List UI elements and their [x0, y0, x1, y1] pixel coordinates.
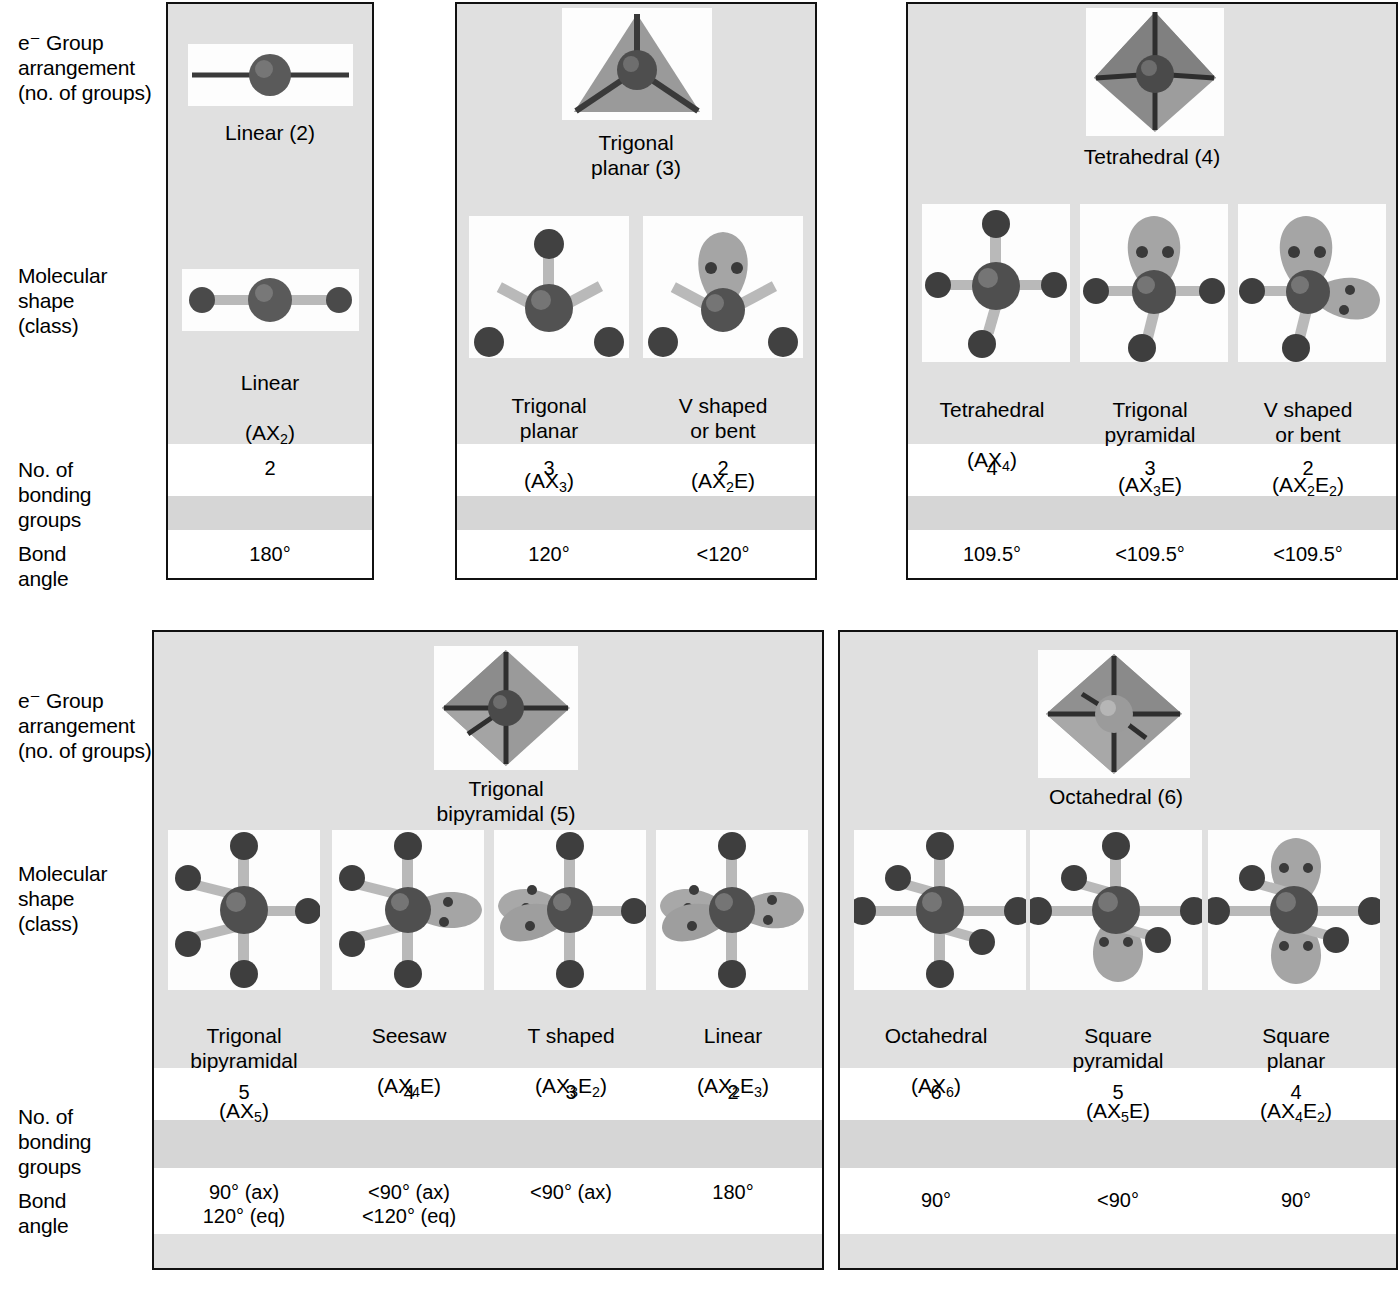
- bond-angle-trigonal-pyramidal: <109.5°: [1070, 542, 1230, 566]
- bond-angle-tetrahedral: 109.5°: [912, 542, 1072, 566]
- linear-ax2-icon: [182, 269, 359, 331]
- panel-trigonal-bipyramidal: Trigonal bipyramidal (5) Trigonal bipyra…: [152, 630, 824, 1270]
- bond-angle-square-planar: 90°: [1204, 1188, 1388, 1212]
- bonding-groups-square-pyramidal: 5: [1026, 1080, 1210, 1104]
- shape-label-bent-ax2e2: V shaped or bent (AX2E2): [1228, 372, 1388, 504]
- shape-name: Square planar: [1262, 1024, 1330, 1072]
- shape-label-trigonal-planar-ax3: Trigonal planar (AX3): [461, 368, 637, 500]
- octahedral-eg-icon: [1038, 650, 1190, 778]
- bonding-groups-bent-ax2e: 2: [635, 456, 811, 480]
- shape-label-square-pyramidal-ax5e: Square pyramidal (AX5E): [1026, 998, 1210, 1130]
- shape-name: Square pyramidal: [1072, 1024, 1163, 1072]
- shape-name: Trigonal planar: [511, 394, 586, 442]
- row-label-bonding-groups-bottom: No. of bonding groups: [18, 1104, 91, 1179]
- bonding-groups-octahedral: 6: [844, 1080, 1028, 1104]
- bonding-groups-linear-ax2e3: 2: [650, 1080, 816, 1104]
- bonding-groups-tetrahedral: 4: [912, 456, 1072, 480]
- shape-label-square-planar-ax4e2: Square planar (AX4E2): [1204, 998, 1388, 1130]
- shape-name: V shaped or bent: [679, 394, 768, 442]
- egroup-label-linear: Linear (2): [168, 120, 372, 145]
- shape-name: Octahedral: [885, 1024, 988, 1047]
- bonding-groups-trigonal-planar: 3: [461, 456, 637, 480]
- row-label-bond-angle-bottom: Bond angle: [18, 1188, 68, 1238]
- panel-linear: Linear (2) Linear (AX2) 2 180°: [166, 2, 374, 580]
- bonding-groups-trigonal-bipyramidal: 5: [154, 1080, 334, 1104]
- shape-name: Tetrahedral: [939, 398, 1044, 421]
- panel-trigonal-planar: Trigonal planar (3) Trigonal planar (AX3…: [455, 2, 817, 580]
- bond-angle-linear: 180°: [168, 542, 372, 566]
- octahedral-ax6-icon: [854, 830, 1026, 990]
- shape-label-trigonal-pyramidal-ax3e: Trigonal pyramidal (AX3E): [1070, 372, 1230, 504]
- trigonal-pyramidal-ax3e-icon: [1080, 204, 1228, 362]
- egroup-label-trigonal-bipyramidal: Trigonal bipyramidal (5): [344, 776, 668, 826]
- tetrahedral-eg-icon: [1086, 8, 1224, 136]
- panel-tetrahedral: Tetrahedral (4) Tetrahedral (AX4): [906, 2, 1398, 580]
- shape-class: (AX2): [245, 421, 295, 444]
- seesaw-ax4e-icon: [332, 830, 484, 990]
- trigonal-bipyramidal-eg-icon: [434, 646, 578, 770]
- shape-name: Trigonal bipyramidal: [190, 1024, 297, 1072]
- tetrahedral-ax4-icon: [922, 204, 1070, 362]
- shape-name: T shaped: [527, 1024, 614, 1047]
- shape-name: V shaped or bent: [1264, 398, 1353, 446]
- t-shaped-ax3e2-icon: [494, 830, 646, 990]
- row-label-egroup-top: e⁻ Group arrangement (no. of groups): [18, 30, 152, 105]
- bonding-groups-seesaw: 4: [326, 1080, 492, 1104]
- bonding-groups-trigonal-pyramidal: 3: [1070, 456, 1230, 480]
- bond-angle-trigonal-planar: 120°: [461, 542, 637, 566]
- trigonal-bipyramidal-ax5-icon: [168, 830, 320, 990]
- egroup-label-tetrahedral: Tetrahedral (4): [908, 144, 1396, 169]
- egroup-label-trigonal-planar: Trigonal planar (3): [457, 130, 815, 180]
- bent-ax2e2-icon: [1238, 204, 1386, 362]
- bond-angle-seesaw: <90° (ax) <120° (eq): [326, 1180, 492, 1228]
- band-spacer: [168, 496, 372, 530]
- bent-ax2e-icon: [643, 216, 803, 358]
- panel-octahedral: Octahedral (6) Octahedral (AX6): [838, 630, 1398, 1270]
- shape-name: Linear: [704, 1024, 762, 1047]
- band-spacer: [457, 496, 815, 530]
- row-label-bond-angle-top: Bond angle: [18, 541, 68, 591]
- bond-angle-bent-ax2e2: <109.5°: [1228, 542, 1388, 566]
- egroup-label-octahedral: Octahedral (6): [968, 784, 1264, 809]
- bond-angle-bent-ax2e: <120°: [635, 542, 811, 566]
- shape-name: Trigonal pyramidal: [1104, 398, 1195, 446]
- row-label-molecular-shape-bottom: Molecular shape (class): [18, 861, 107, 936]
- bond-angle-square-pyramidal: <90°: [1026, 1188, 1210, 1212]
- square-planar-ax4e2-icon: [1208, 830, 1380, 990]
- bonding-groups-linear: 2: [168, 456, 372, 480]
- shape-label-trigonal-bipyramidal-ax5: Trigonal bipyramidal (AX5): [154, 998, 334, 1130]
- shape-name: Seesaw: [372, 1024, 447, 1047]
- figure-caption: [14, 1292, 1384, 1306]
- linear-ax2e3-icon: [656, 830, 808, 990]
- bond-angle-t-shaped: <90° (ax): [488, 1180, 654, 1204]
- shape-name: Linear: [241, 371, 299, 394]
- shape-label-linear-ax2: Linear (AX2): [168, 345, 372, 452]
- trigonal-planar-ax3-icon: [469, 216, 629, 358]
- bond-angle-trigonal-bipyramidal: 90° (ax) 120° (eq): [154, 1180, 334, 1228]
- row-label-molecular-shape-top: Molecular shape (class): [18, 263, 107, 338]
- bonding-groups-square-planar: 4: [1204, 1080, 1388, 1104]
- bond-angle-linear-ax2e3: 180°: [650, 1180, 816, 1204]
- row-label-egroup-bottom: e⁻ Group arrangement (no. of groups): [18, 688, 152, 763]
- bonding-groups-t-shaped: 3: [488, 1080, 654, 1104]
- bond-angle-octahedral: 90°: [844, 1188, 1028, 1212]
- square-pyramidal-ax5e-icon: [1030, 830, 1202, 990]
- row-label-bonding-groups-top: No. of bonding groups: [18, 457, 91, 532]
- linear-eg-icon: [188, 44, 353, 106]
- trigonal-planar-eg-icon: [562, 8, 712, 120]
- bonding-groups-bent-ax2e2: 2: [1228, 456, 1388, 480]
- shape-label-bent-ax2e: V shaped or bent (AX2E): [635, 368, 811, 500]
